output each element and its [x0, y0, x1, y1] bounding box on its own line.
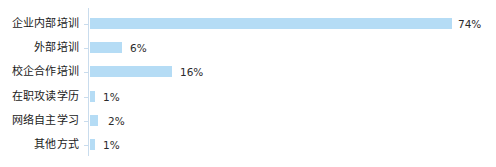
bar: [90, 115, 98, 126]
bar-value-label: 2%: [108, 115, 125, 127]
category-label: 其他方式: [0, 138, 79, 151]
bar: [90, 18, 452, 29]
category-label: 外部培训: [0, 41, 79, 54]
axis-tick: [84, 72, 88, 73]
axis-tick: [84, 97, 88, 98]
axis-tick: [84, 145, 88, 146]
axis-tick: [84, 48, 88, 49]
bar: [90, 139, 95, 150]
bar-value-label: 16%: [180, 66, 203, 78]
bar-row: 企业内部培训74%: [0, 12, 496, 36]
category-label: 在职攻读学历: [0, 90, 79, 103]
bar-row: 在职攻读学历1%: [0, 85, 496, 109]
category-label: 校企合作培训: [0, 65, 79, 78]
bar-row: 校企合作培训16%: [0, 60, 496, 84]
bar-row: 外部培训6%: [0, 36, 496, 60]
bar: [90, 42, 122, 53]
bar-row: 网络自主学习2%: [0, 109, 496, 133]
bar: [90, 91, 95, 102]
bar-value-label: 74%: [458, 18, 481, 30]
axis-tick: [84, 24, 88, 25]
bar-rows-container: 企业内部培训74%外部培训6%校企合作培训16%在职攻读学历1%网络自主学习2%…: [0, 0, 496, 167]
bar-row: 其他方式1%: [0, 133, 496, 157]
axis-tick: [84, 121, 88, 122]
category-label: 网络自主学习: [0, 114, 79, 127]
bar-value-label: 6%: [130, 42, 147, 54]
bar: [90, 66, 172, 77]
bar-value-label: 1%: [103, 139, 120, 151]
horizontal-bar-chart: 企业内部培训74%外部培训6%校企合作培训16%在职攻读学历1%网络自主学习2%…: [0, 0, 496, 167]
bar-value-label: 1%: [103, 91, 120, 103]
category-label: 企业内部培训: [0, 17, 79, 30]
